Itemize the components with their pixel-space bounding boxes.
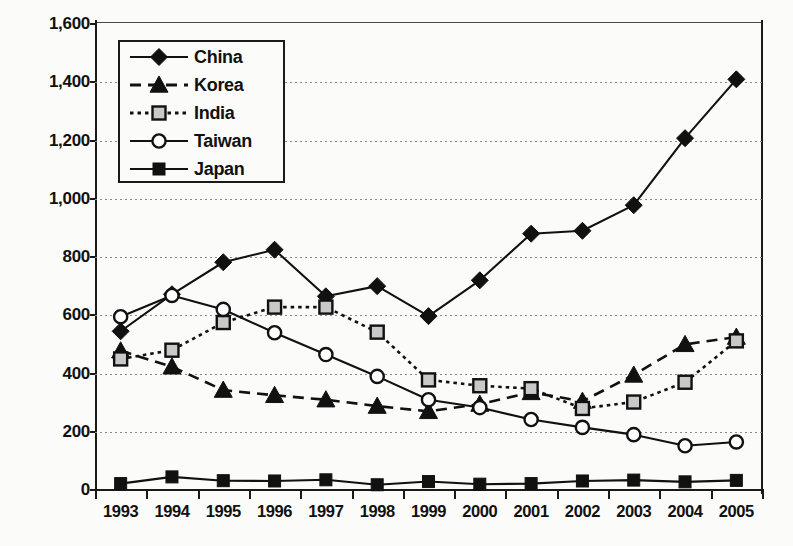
plot-top-border: [95, 22, 763, 23]
legend-label-korea: Korea: [194, 72, 244, 98]
data-point-filled-diamond: [369, 278, 386, 295]
data-point-filled-square: [576, 475, 588, 487]
data-point-open-circle: [114, 310, 127, 323]
x-tick-label: 2003: [616, 502, 651, 521]
x-tick-label: 1997: [308, 502, 343, 521]
x-tick-mark: [146, 491, 148, 499]
data-point-open-square: [679, 376, 692, 389]
x-tick-mark: [300, 491, 302, 499]
data-point-open-circle: [217, 303, 230, 316]
data-point-open-circle: [371, 370, 384, 383]
x-tick-label: 2000: [462, 502, 497, 521]
data-point-filled-square: [525, 478, 537, 490]
line-chart: 02004006008001,0001,2001,4001,600 199319…: [0, 0, 793, 546]
legend-label-japan: Japan: [194, 156, 245, 182]
data-point-open-circle: [152, 134, 165, 147]
x-tick-mark: [198, 491, 200, 499]
data-point-open-square: [153, 107, 166, 120]
x-tick-mark: [762, 491, 764, 499]
x-tick-label: 2005: [719, 502, 754, 521]
x-tick-label: 1993: [103, 502, 138, 521]
x-tick-mark: [352, 491, 354, 499]
legend-item-korea[interactable]: Korea: [120, 72, 283, 98]
x-tick-mark: [711, 491, 713, 499]
legend-sample-korea: [128, 72, 190, 98]
x-tick-label: 1998: [360, 502, 395, 521]
data-point-filled-triangle: [625, 366, 643, 382]
x-tick-mark: [454, 491, 456, 499]
x-tick-label: 1995: [206, 502, 241, 521]
x-tick-label: 2004: [667, 502, 702, 521]
data-point-filled-diamond: [420, 308, 437, 325]
data-point-filled-diamond: [215, 254, 232, 271]
data-point-open-square: [627, 396, 640, 409]
data-point-filled-square: [269, 475, 281, 487]
data-point-open-square: [268, 301, 281, 314]
data-point-filled-square: [474, 478, 486, 490]
data-point-open-circle: [627, 428, 640, 441]
legend-item-taiwan[interactable]: Taiwan: [120, 128, 283, 154]
legend-item-japan[interactable]: Japan: [120, 156, 283, 182]
data-point-open-circle: [576, 421, 589, 434]
data-point-open-circle: [678, 439, 691, 452]
data-point-filled-square: [320, 474, 332, 486]
data-point-open-circle: [525, 413, 538, 426]
data-point-open-square: [576, 402, 589, 415]
data-point-filled-diamond: [625, 197, 642, 214]
x-tick-label: 2001: [514, 502, 549, 521]
data-point-open-square: [165, 344, 178, 357]
data-point-filled-square: [115, 478, 127, 490]
legend-sample-japan: [128, 156, 190, 182]
data-point-open-square: [525, 382, 538, 395]
x-tick-label: 1999: [411, 502, 446, 521]
legend-sample-taiwan: [128, 128, 190, 154]
data-point-filled-square: [730, 474, 742, 486]
data-point-open-circle: [165, 289, 178, 302]
data-point-open-square: [371, 326, 384, 339]
data-point-filled-triangle: [163, 358, 181, 374]
legend-item-china[interactable]: China: [120, 44, 283, 70]
data-point-open-circle: [268, 326, 281, 339]
data-point-filled-square: [371, 479, 383, 491]
data-point-open-square: [114, 352, 127, 365]
data-point-filled-square: [153, 163, 165, 175]
x-tick-mark: [505, 491, 507, 499]
data-point-open-circle: [730, 435, 743, 448]
y-tick-label: 600: [2, 305, 90, 325]
x-tick-mark: [95, 491, 97, 499]
y-tick-label: 200: [2, 422, 90, 442]
data-point-open-square: [319, 301, 332, 314]
data-point-filled-square: [217, 475, 229, 487]
data-point-filled-diamond: [574, 222, 591, 239]
data-point-open-square: [730, 334, 743, 347]
data-point-open-circle: [422, 393, 435, 406]
data-point-filled-triangle: [214, 381, 232, 397]
y-tick-label: 800: [2, 247, 90, 267]
x-tick-mark: [403, 491, 405, 499]
x-tick-mark: [557, 491, 559, 499]
data-point-filled-square: [423, 476, 435, 488]
data-point-open-circle: [319, 348, 332, 361]
data-point-open-square: [473, 379, 486, 392]
y-tick-label: 400: [2, 364, 90, 384]
data-point-filled-square: [166, 471, 178, 483]
x-tick-mark: [659, 491, 661, 499]
x-tick-mark: [608, 491, 610, 499]
data-point-open-square: [217, 316, 230, 329]
data-point-filled-diamond: [151, 49, 168, 66]
y-tick-label: 1,200: [2, 131, 90, 151]
legend: ChinaKoreaIndiaTaiwanJapan: [118, 40, 285, 183]
data-point-filled-square: [628, 474, 640, 486]
x-tick-mark: [249, 491, 251, 499]
legend-sample-india: [128, 100, 190, 126]
data-point-filled-triangle: [266, 386, 284, 402]
legend-item-india[interactable]: India: [120, 100, 283, 126]
data-point-open-square: [422, 373, 435, 386]
legend-label-china: China: [194, 44, 243, 70]
x-tick-label: 2002: [565, 502, 600, 521]
y-tick-label: 0: [2, 480, 90, 500]
x-tick-label: 1996: [257, 502, 292, 521]
data-point-filled-square: [679, 476, 691, 488]
legend-label-india: India: [194, 100, 235, 126]
legend-sample-china: [128, 44, 190, 70]
